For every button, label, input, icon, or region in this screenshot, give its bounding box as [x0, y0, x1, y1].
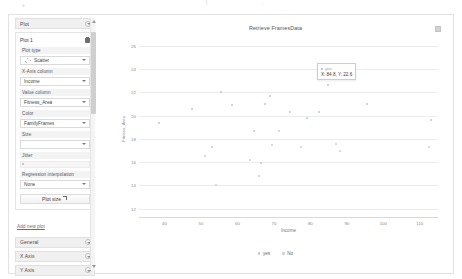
- select-value: Scatter: [34, 58, 49, 63]
- settings-sidebar: Plot Plot 1 Plot type Scatter: [15, 18, 95, 270]
- plot-card-title: Plot 1: [20, 37, 33, 43]
- data-point[interactable]: [306, 117, 308, 119]
- field-label: Color: [20, 110, 90, 117]
- chart-title: Retrieve FramesData: [101, 25, 450, 31]
- gridline: [139, 185, 438, 186]
- scrollbar-thumb[interactable]: [91, 32, 96, 114]
- plot-type-select[interactable]: Scatter: [20, 56, 90, 65]
- y-axis-tick: 12: [131, 206, 136, 211]
- data-point[interactable]: [211, 146, 213, 148]
- chevron-down-icon: [82, 183, 86, 185]
- plot-card-header: Plot 1: [20, 37, 90, 43]
- legend-item-yes[interactable]: yes: [258, 251, 270, 256]
- data-point[interactable]: [289, 111, 291, 113]
- section-label: Plot: [20, 21, 29, 27]
- field-regression-interpolation: Regression interpolation None: [20, 171, 90, 189]
- data-point[interactable]: [430, 119, 432, 121]
- x-axis-tick: 70: [271, 221, 276, 226]
- scatter-plot[interactable]: Income Fitness_Area 26242220181614124050…: [139, 39, 438, 218]
- chevron-down-icon: [82, 59, 86, 61]
- field-color: Color FamilyFrames: [20, 110, 90, 128]
- x-axis-tick: 40: [162, 221, 167, 226]
- chart-area: Retrieve FramesData Income Fitness_Area …: [101, 18, 450, 270]
- chevron-down-icon: [82, 80, 86, 82]
- data-point[interactable]: [335, 143, 337, 145]
- y-axis-tick: 16: [131, 160, 136, 165]
- data-point[interactable]: [327, 84, 329, 86]
- chart-menu-icon[interactable]: [435, 26, 441, 32]
- app-root: + | · Plot Plot 1 Plot type Scatter: [0, 0, 462, 279]
- plot-size-button[interactable]: Plot size: [20, 194, 90, 204]
- x-axis-column-select[interactable]: Income: [20, 77, 90, 86]
- chevron-down-icon: [82, 101, 86, 103]
- data-point[interactable]: [264, 103, 266, 105]
- add-new-plot-link[interactable]: Add new plot: [17, 224, 45, 229]
- x-axis-label: Income: [139, 228, 438, 233]
- caret-up-icon[interactable]: [92, 20, 96, 23]
- field-label: Value column: [20, 89, 90, 96]
- field-size: Size: [20, 131, 90, 149]
- x-axis-tick: 60: [235, 221, 240, 226]
- data-point[interactable]: [271, 144, 273, 146]
- legend-label: No: [287, 251, 293, 256]
- select-value: Fitness_Area: [24, 100, 52, 105]
- tooltip-coords: X: 84.8, Y: 22.6: [321, 72, 352, 77]
- tooltip-series-row: yes: [321, 66, 352, 71]
- data-point[interactable]: [339, 150, 341, 152]
- x-axis-tick: 80: [308, 221, 313, 226]
- jitter-slider[interactable]: [20, 161, 90, 168]
- data-point[interactable]: [191, 108, 193, 110]
- section-header-general[interactable]: General: [15, 237, 95, 248]
- section-label: Y Axis: [20, 267, 34, 273]
- section-header-plot[interactable]: Plot: [15, 18, 95, 29]
- data-point[interactable]: [204, 155, 206, 157]
- legend-swatch: [258, 252, 261, 255]
- plot-configurator-panel: Plot Plot 1 Plot type Scatter: [8, 14, 454, 274]
- color-select[interactable]: FamilyFrames: [20, 119, 90, 128]
- x-axis-tick: 100: [380, 221, 387, 226]
- data-point[interactable]: [231, 104, 233, 106]
- data-point[interactable]: [269, 95, 271, 97]
- data-point[interactable]: [249, 159, 251, 161]
- resize-icon: [63, 196, 68, 201]
- data-point[interactable]: [300, 146, 302, 148]
- section-label: X Axis: [20, 253, 35, 259]
- y-axis-label: Fitness_Area: [121, 116, 126, 142]
- top-stray-mark: +: [22, 3, 25, 8]
- gridline: [139, 139, 438, 140]
- field-label: X-Axis column: [20, 68, 90, 75]
- y-axis-tick: 14: [131, 183, 136, 188]
- plot-card: Plot 1 Plot type Scatter X-Axis column: [15, 32, 95, 210]
- data-point[interactable]: [278, 130, 280, 132]
- caret-down-icon[interactable]: [92, 265, 96, 268]
- section-header-y-axis[interactable]: Y Axis: [15, 265, 95, 276]
- y-axis-tick: 20: [131, 113, 136, 118]
- section-label: General: [20, 239, 39, 245]
- field-label: Jitter: [20, 152, 90, 159]
- data-point[interactable]: [260, 162, 262, 164]
- data-point[interactable]: [318, 111, 320, 113]
- x-axis-line: [139, 217, 438, 218]
- data-point[interactable]: [258, 175, 260, 177]
- gridline: [139, 116, 438, 117]
- field-x-axis-column: X-Axis column Income: [20, 68, 90, 86]
- field-jitter: Jitter: [20, 152, 90, 168]
- tooltip-swatch: [321, 68, 323, 70]
- field-label: Plot type: [20, 47, 90, 54]
- data-point[interactable]: [158, 122, 160, 124]
- data-point[interactable]: [428, 146, 430, 148]
- value-column-select[interactable]: Fitness_Area: [20, 98, 90, 107]
- tooltip-series-label: yes: [325, 66, 332, 71]
- section-header-x-axis[interactable]: X Axis: [15, 251, 95, 262]
- regression-interpolation-select[interactable]: None: [20, 180, 90, 189]
- size-select[interactable]: [20, 140, 90, 149]
- data-point[interactable]: [366, 103, 368, 105]
- y-axis-tick: 26: [131, 43, 136, 48]
- legend-item-no[interactable]: No: [282, 251, 293, 256]
- sidebar-scrollbar[interactable]: [90, 18, 95, 270]
- select-value: Income: [24, 79, 40, 84]
- data-point[interactable]: [253, 130, 255, 132]
- data-point-tooltip: yesX: 84.8, Y: 22.6: [317, 63, 356, 80]
- top-stray-mark: |: [206, 0, 207, 5]
- field-value-column: Value column Fitness_Area: [20, 89, 90, 107]
